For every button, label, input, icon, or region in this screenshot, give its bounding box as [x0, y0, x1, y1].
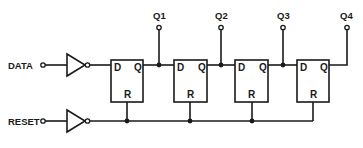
data-input-label: DATA: [8, 60, 33, 71]
svg-text:Q1: Q1: [153, 10, 166, 21]
flipflop-3: D Q R: [235, 60, 268, 123]
svg-text:D: D: [114, 62, 121, 73]
output-q1: Q1: [153, 10, 166, 67]
shift-register-diagram: DATA RESET D Q R D Q R D Q R: [0, 0, 363, 148]
svg-text:D: D: [238, 62, 245, 73]
svg-text:R: R: [124, 89, 132, 100]
output-q2: Q2: [215, 10, 228, 67]
svg-text:D: D: [177, 62, 184, 73]
svg-text:Q: Q: [259, 62, 267, 73]
reset-input-path: [41, 110, 313, 132]
flipflop-1: D Q R: [111, 60, 143, 123]
svg-text:Q: Q: [134, 62, 142, 73]
data-input-path: [41, 54, 111, 76]
output-q4: Q4: [340, 10, 353, 30]
flipflop-4: D Q R: [297, 60, 329, 121]
svg-text:R: R: [248, 89, 256, 100]
reset-input-label: RESET: [8, 116, 40, 127]
svg-text:Q: Q: [198, 62, 206, 73]
data-buffer-inverter-icon: [67, 54, 85, 76]
svg-text:Q3: Q3: [277, 10, 290, 21]
flipflop-2: D Q R: [174, 60, 207, 123]
svg-text:R: R: [187, 89, 195, 100]
data-input-terminal: [41, 63, 45, 67]
reset-input-terminal: [41, 119, 45, 123]
reset-buffer-inverter-icon: [67, 110, 85, 132]
svg-text:Q2: Q2: [215, 10, 228, 21]
output-q3: Q3: [277, 10, 290, 67]
svg-text:Q: Q: [320, 62, 328, 73]
svg-text:D: D: [300, 62, 307, 73]
svg-text:Q4: Q4: [340, 10, 353, 21]
svg-text:R: R: [310, 89, 318, 100]
